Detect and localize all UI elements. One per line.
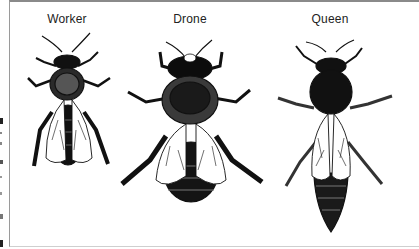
worker-bee-illustration [28,33,110,166]
queen-bee-illustration [278,40,392,232]
drone-bee-illustration [122,40,262,202]
bee-illustrations [0,0,419,249]
